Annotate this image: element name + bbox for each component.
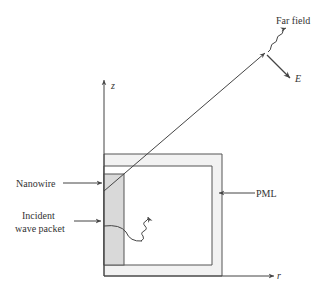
r-axis-label: r bbox=[277, 270, 281, 281]
far-field-label: Far field bbox=[276, 15, 310, 26]
z-axis-label: z bbox=[110, 80, 115, 91]
nanowire bbox=[104, 174, 124, 265]
incident-label-line2: wave packet bbox=[15, 223, 65, 234]
pml-label: PML bbox=[256, 188, 277, 199]
simulation-diagram: Far field E z r PML Nanowire Incident wa… bbox=[0, 0, 322, 292]
far-field-wave-icon bbox=[268, 28, 286, 52]
e-field-arrow bbox=[267, 55, 290, 78]
incident-label-line1: Incident bbox=[22, 210, 55, 221]
e-field-label: E bbox=[294, 73, 301, 84]
nanowire-label: Nanowire bbox=[16, 178, 56, 189]
